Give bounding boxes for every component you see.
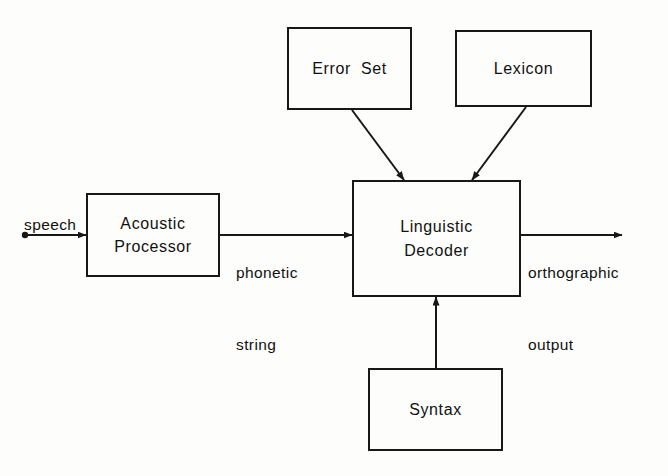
diagram-canvas: Error Set Lexicon Acoustic Processor Lin… (0, 0, 668, 476)
edge-label-orthographic-output: orthographic output (528, 213, 619, 405)
box-syntax[interactable]: Syntax (368, 368, 503, 451)
error-set-feed-arrow (352, 110, 404, 180)
lexicon-feed-arrow (472, 107, 526, 180)
box-error-set-label: Error Set (312, 57, 386, 80)
box-linguistic-decoder[interactable]: Linguistic Decoder (352, 180, 521, 297)
edge-label-phonetic-line2: string (236, 333, 298, 357)
box-syntax-label: Syntax (409, 398, 462, 421)
box-acoustic-processor[interactable]: Acoustic Processor (86, 193, 220, 277)
box-lexicon[interactable]: Lexicon (455, 30, 592, 107)
box-acoustic-processor-label-line1: Acoustic (120, 212, 185, 235)
box-linguistic-decoder-label-line2: Decoder (404, 239, 469, 262)
box-linguistic-decoder-label-line1: Linguistic (400, 215, 473, 238)
box-error-set[interactable]: Error Set (287, 27, 412, 110)
edge-label-orthographic-line1: orthographic (528, 261, 619, 285)
edge-label-phonetic-string: phonetic string (236, 213, 298, 405)
edge-label-speech: speech (24, 216, 76, 234)
box-acoustic-processor-label-line2: Processor (114, 235, 191, 258)
box-lexicon-label: Lexicon (494, 57, 553, 80)
edge-label-phonetic-line1: phonetic (236, 261, 298, 285)
edge-label-orthographic-line2: output (528, 333, 619, 357)
